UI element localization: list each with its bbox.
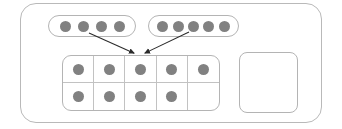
counter-dot [114, 21, 125, 32]
ten-frame-cell[interactable] [94, 56, 125, 83]
counter-dot [157, 21, 168, 32]
ten-frame-cell-empty[interactable] [188, 83, 219, 110]
ten-frame-cell[interactable] [63, 83, 94, 110]
ten-frame-cell[interactable] [157, 83, 188, 110]
counter-dot [78, 21, 89, 32]
ten-frame[interactable] [62, 55, 220, 111]
counter-dot [104, 91, 115, 102]
counter-dot [96, 21, 107, 32]
empty-frame[interactable] [239, 52, 298, 113]
counter-dot [166, 64, 177, 75]
diagram-canvas [0, 0, 342, 129]
counter-dot [73, 64, 84, 75]
counter-dot [188, 21, 199, 32]
ten-frame-cell[interactable] [94, 83, 125, 110]
counter-dot [166, 91, 177, 102]
counter-dot [219, 21, 230, 32]
counter-dot [73, 91, 84, 102]
counter-dot [135, 91, 146, 102]
counter-dot [173, 21, 184, 32]
counter-group-right[interactable] [148, 15, 239, 37]
counter-dot [198, 64, 209, 75]
ten-frame-cell[interactable] [125, 56, 156, 83]
counter-dot [135, 64, 146, 75]
ten-frame-cell[interactable] [188, 56, 219, 83]
ten-frame-cell[interactable] [63, 56, 94, 83]
ten-frame-cell[interactable] [157, 56, 188, 83]
counter-dot [104, 64, 115, 75]
counter-dot [60, 21, 71, 32]
ten-frame-cell[interactable] [125, 83, 156, 110]
counter-group-left[interactable] [48, 15, 136, 37]
counter-dot [203, 21, 214, 32]
